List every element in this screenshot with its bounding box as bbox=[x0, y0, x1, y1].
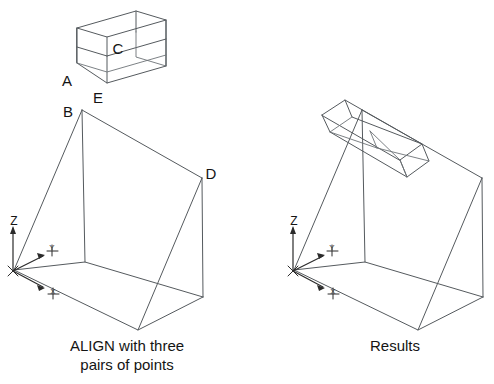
wedge-floor-front bbox=[14, 270, 203, 330]
ucs-z-label-left: Z bbox=[10, 214, 17, 228]
technical-drawing-canvas: C A E B D bbox=[0, 0, 494, 384]
caption-left: ALIGN with three pairs of points bbox=[22, 336, 232, 374]
wedge-left-slant-right bbox=[294, 110, 362, 270]
wedge-floor-front-right bbox=[294, 270, 483, 330]
label-a: A bbox=[62, 72, 72, 89]
wedge-back-vertical-right bbox=[362, 110, 365, 262]
ucs-icon-left: Z Y X bbox=[8, 214, 59, 299]
target-wedge-left bbox=[14, 110, 203, 330]
right-panel-group: Z Y X bbox=[288, 100, 483, 330]
aligned-box-front-face bbox=[322, 115, 407, 177]
aligned-box-divider-vertical bbox=[370, 131, 377, 148]
label-e: E bbox=[93, 89, 103, 106]
box-top-front-edge bbox=[77, 20, 166, 37]
wedge-top-slant-edge bbox=[82, 110, 202, 178]
wedge-front-slant bbox=[138, 178, 202, 330]
ucs-y-label-left: Y bbox=[49, 243, 55, 252]
ucs-x-axis-left bbox=[13, 271, 43, 287]
wedge-right-vertical bbox=[202, 178, 203, 297]
ucs-z-label-right: Z bbox=[290, 214, 297, 228]
wedge-front-slant-right bbox=[418, 178, 482, 330]
aligned-box-inner-edge bbox=[330, 117, 352, 132]
label-b: B bbox=[63, 103, 73, 120]
wedge-back-vertical bbox=[82, 110, 85, 262]
figure-root: C A E B D bbox=[0, 0, 494, 384]
box-back-vertical-lower bbox=[136, 32, 166, 66]
ucs-x-label-left: X bbox=[50, 287, 56, 296]
label-d: D bbox=[206, 165, 217, 182]
ucs-x-label-right: X bbox=[330, 287, 336, 296]
ucs-x-axis-right bbox=[293, 271, 323, 287]
wedge-right-vertical-right bbox=[482, 178, 483, 297]
box-inner-ledge-left bbox=[77, 47, 107, 56]
aligned-box-divider-lower bbox=[377, 148, 429, 161]
wedge-floor-back bbox=[14, 262, 203, 297]
wedge-floor-back-right bbox=[294, 262, 483, 297]
ucs-icon-right: Z Y X bbox=[288, 214, 339, 299]
ucs-y-label-right: Y bbox=[329, 243, 335, 252]
target-wedge-right bbox=[294, 110, 483, 330]
caption-right: Results bbox=[330, 336, 460, 355]
wedge-left-slant bbox=[14, 110, 82, 270]
aligned-box-top-face bbox=[322, 100, 422, 160]
left-panel-group: C A E B D bbox=[8, 11, 217, 330]
label-c: C bbox=[113, 40, 124, 57]
